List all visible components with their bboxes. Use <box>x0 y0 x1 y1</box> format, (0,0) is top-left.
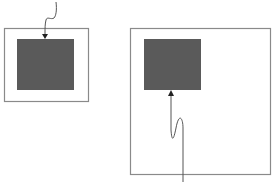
diagram-canvas <box>0 0 273 182</box>
gray-square <box>17 39 74 90</box>
arrowhead-up-icon <box>168 90 174 96</box>
squiggle-arrow-line <box>45 2 56 34</box>
large-panel <box>131 29 271 183</box>
arrowhead-down-icon <box>42 34 48 39</box>
gray-square <box>144 39 201 90</box>
small-panel <box>5 2 89 102</box>
squiggle-arrow-line <box>171 95 183 182</box>
